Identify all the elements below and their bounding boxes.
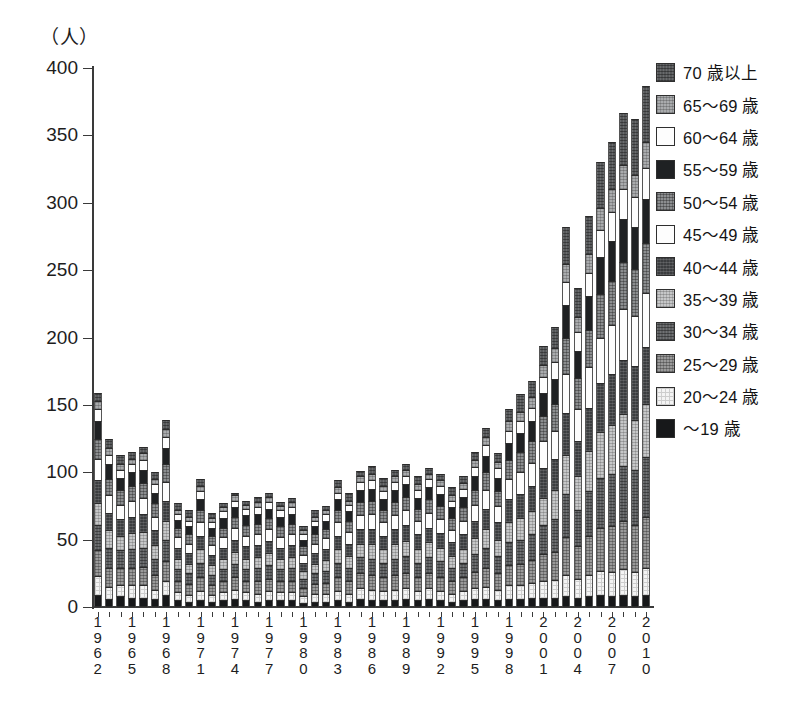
bar-segment-age_30_34	[128, 549, 136, 568]
x-axis-label-digit: 0	[299, 661, 307, 677]
bar-segment-age_65_69	[505, 421, 513, 430]
x-axis-tick	[463, 612, 464, 617]
bar-segment-age_65_69	[619, 165, 627, 189]
bar-segment-age_50_54	[151, 503, 159, 516]
x-axis-label-1977: 1977	[265, 614, 273, 676]
bar-segment-age_50_54	[619, 262, 627, 309]
legend-item-2[interactable]: 65～69 歳	[656, 88, 786, 120]
bar-1962	[94, 393, 102, 607]
bar-segment-age_30_34	[539, 525, 547, 555]
bar-segment-age_35_39	[231, 552, 239, 564]
bar-segment-age_50_54	[414, 509, 422, 521]
x-axis-label-1998: 1998	[505, 614, 513, 676]
legend-item-9[interactable]: 30～34 歳	[656, 315, 786, 347]
bar-segment-age_30_34	[391, 559, 399, 575]
bar-segment-age_35_39	[356, 544, 364, 557]
bar-segment-age_45_49	[356, 515, 364, 528]
bar-segment-age_u19	[356, 599, 364, 607]
bar-segment-age_u19	[516, 599, 524, 607]
bar-segment-age_30_34	[276, 569, 284, 581]
bar-segment-age_20_24	[345, 594, 353, 602]
bar-segment-age_55_59	[242, 515, 250, 524]
bar-segment-age_20_24	[288, 592, 296, 600]
x-axis-tick	[246, 612, 247, 617]
bar-segment-age_50_54	[265, 518, 273, 529]
bar-segment-age_60_64	[505, 431, 513, 443]
legend-item-4[interactable]: 55～59 歳	[656, 153, 786, 185]
bar-segment-age_60_64	[345, 505, 353, 512]
bar-segment-age_60_64	[482, 445, 490, 456]
x-axis-tick	[395, 612, 396, 617]
bar-segment-age_45_49	[288, 534, 296, 545]
bar-segment-age_35_39	[116, 536, 124, 551]
bar-segment-age_35_39	[631, 420, 639, 470]
bar-segment-age_30_34	[642, 457, 650, 516]
bar-segment-age_25_29	[334, 577, 342, 590]
bar-segment-age_30_34	[265, 565, 273, 578]
legend-item-5[interactable]: 50～54 歳	[656, 186, 786, 218]
legend-item-1[interactable]: 70 歳以上	[656, 56, 786, 88]
bar-segment-age_35_39	[505, 522, 513, 542]
bar-1990	[414, 476, 422, 607]
bar-segment-age_30_34	[471, 554, 479, 572]
x-axis-label-digit: 5	[471, 661, 479, 677]
bar-segment-age_60_64	[276, 510, 284, 517]
legend-item-6[interactable]: 45～49 歳	[656, 218, 786, 250]
legend-label: 60～64 歳	[683, 125, 760, 149]
bar-1991	[425, 468, 433, 607]
legend-swatch-icon	[656, 419, 675, 438]
bar-segment-age_25_29	[585, 536, 593, 575]
bar-segment-age_20_24	[356, 588, 364, 599]
legend-swatch-icon	[656, 322, 675, 341]
legend-item-11[interactable]: 20～24 歳	[656, 380, 786, 412]
bar-segment-age_70_plus	[631, 119, 639, 174]
bar-segment-age_60_64	[436, 486, 444, 494]
legend-item-12[interactable]: ～19 歳	[656, 412, 786, 444]
bar-segment-age_45_49	[379, 522, 387, 535]
bar-segment-age_60_64	[162, 437, 170, 448]
bar-segment-age_30_34	[334, 563, 342, 578]
bar-segment-age_35_39	[311, 564, 319, 573]
bar-segment-age_30_34	[528, 534, 536, 560]
x-axis-label-digit: 3	[334, 661, 342, 677]
bar-segment-age_30_34	[482, 548, 490, 568]
bar-2008	[619, 112, 627, 607]
bar-segment-age_65_69	[494, 462, 502, 469]
legend-swatch-icon	[656, 160, 675, 179]
bar-segment-age_40_44	[242, 546, 250, 558]
y-axis-tick-label: 100	[46, 461, 78, 483]
x-axis-label-digit: 9	[471, 630, 479, 646]
bar-segment-age_25_29	[196, 577, 204, 590]
x-axis-label-digit: 9	[436, 630, 444, 646]
bar-segment-age_u19	[116, 596, 124, 607]
bar-segment-age_60_64	[402, 476, 410, 484]
bar-segment-age_45_49	[414, 521, 422, 534]
bar-segment-age_70_plus	[562, 227, 570, 263]
bar-segment-age_35_39	[128, 533, 136, 549]
bar-segment-age_u19	[619, 595, 627, 607]
bar-segment-age_30_34	[494, 556, 502, 574]
bar-segment-age_30_34	[562, 494, 570, 537]
bar-segment-age_50_54	[459, 507, 467, 520]
legend-item-8[interactable]: 35～39 歳	[656, 283, 786, 315]
x-axis-label-digit: 1	[265, 614, 273, 630]
y-axis-tick-label: 400	[46, 57, 78, 79]
legend-item-3[interactable]: 60～64 歳	[656, 121, 786, 153]
bar-segment-age_25_29	[322, 583, 330, 594]
x-axis-label-digit: 8	[334, 645, 342, 661]
bar-segment-age_60_64	[379, 491, 387, 499]
bar-segment-age_45_49	[619, 309, 627, 360]
legend-item-10[interactable]: 25～29 歳	[656, 348, 786, 380]
bar-segment-age_50_54	[94, 439, 102, 459]
bar-segment-age_50_54	[208, 536, 216, 545]
legend-item-7[interactable]: 40～44 歳	[656, 250, 786, 282]
bar-segment-age_25_29	[254, 581, 262, 593]
x-axis-tick	[383, 612, 384, 617]
bar-segment-age_20_24	[482, 587, 490, 599]
bar-segment-age_u19	[242, 600, 250, 607]
x-axis-label-1995: 1995	[471, 614, 479, 676]
x-axis-label-digit: 2	[94, 661, 102, 677]
bar-segment-age_55_59	[539, 393, 547, 416]
x-axis-label-1992: 1992	[436, 614, 444, 676]
bar-segment-age_65_69	[162, 429, 170, 437]
